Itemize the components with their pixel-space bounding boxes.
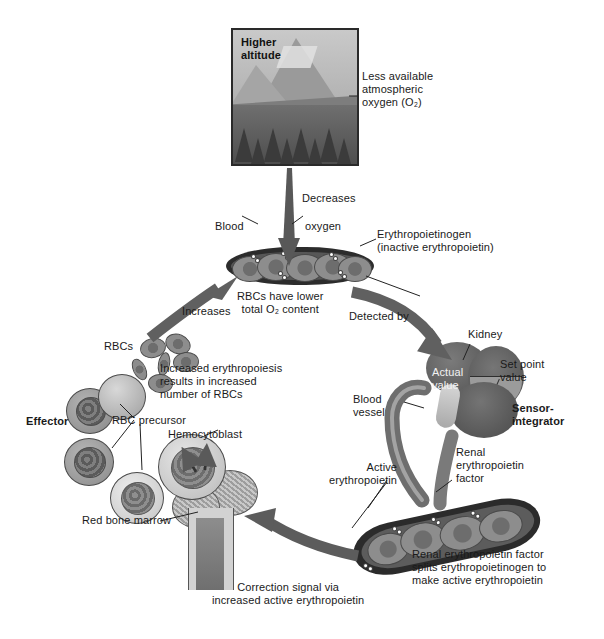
figure-canvas: Higher altitude Less available atmospher…: [0, 0, 604, 639]
set-point-value-label: Set point value: [500, 358, 544, 384]
blood-vessel-label: Blood vessel: [353, 393, 385, 419]
rbcs-label: RBCs: [104, 340, 133, 353]
arrows-and-leaders: [0, 0, 604, 639]
correction-signal-arrow: [262, 518, 358, 556]
erythropoietinogen-label: Erythropoietinogen (inactive erythropoie…: [377, 228, 494, 254]
renal-split-text: Renal erythropoietin factor splits eryth…: [412, 548, 546, 587]
increased-erythropoiesis-text: Increased erythropoiesis results in incr…: [160, 362, 282, 401]
detected-by-label: Detected by: [349, 310, 409, 323]
active-erythropoietin-label: Active erythropoietin: [329, 461, 397, 487]
hemocytoblast-label: Hemocytoblast: [168, 428, 242, 441]
red-bone-marrow-label: Red bone marrow: [82, 514, 171, 527]
sensor-integrator-label: Sensor- integrator: [512, 402, 564, 428]
actual-value-label: Actual value: [432, 366, 463, 392]
kidney-label: Kidney: [468, 328, 502, 341]
rbc-low-oxygen-label: RBCs have lower total O₂ content: [237, 290, 323, 316]
blood-label: Blood: [215, 220, 244, 233]
correction-signal-label: Correction signal via increased active e…: [212, 581, 364, 607]
rbc-precursor-label: RBC precursor: [112, 414, 186, 427]
renal-epo-factor-label: Renal erythropoietin factor: [456, 446, 524, 485]
effector-label: Effector: [26, 415, 68, 428]
increases-label: Increases: [182, 305, 231, 318]
oxygen-label: oxygen: [305, 220, 341, 233]
decreases-label: Decreases: [302, 192, 355, 205]
decreases-arrow: [283, 168, 295, 246]
